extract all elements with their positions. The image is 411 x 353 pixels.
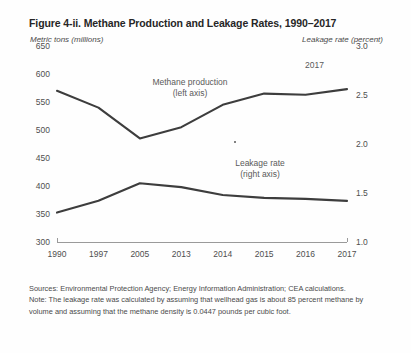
figure-container: Figure 4-ii. Methane Production and Leak… [0, 0, 411, 353]
annotation-production-line1: Methane production [152, 77, 227, 88]
x-axis-line [57, 242, 347, 243]
right-axis-tick-3: 3.0 [356, 41, 368, 51]
plot-area: 300350400450500550600650 1.01.52.02.53.0… [57, 46, 347, 242]
x-axis-right-cap [347, 238, 348, 242]
left-axis-tick-350: 350 [36, 209, 50, 219]
x-axis-tick-1997: 1997 [89, 249, 108, 259]
left-axis-tick-400: 400 [36, 181, 50, 191]
footnote-sources: Sources: Environmental Protection Agency… [29, 283, 389, 294]
right-axis-tick-2: 2.0 [356, 139, 368, 149]
annotation-leakage-line1: Leakage rate [235, 158, 285, 169]
left-axis-tick-650: 650 [36, 41, 50, 51]
series-lines [57, 46, 347, 242]
x-axis-tick-2014: 2014 [213, 249, 232, 259]
x-axis-tick-2016: 2016 [296, 249, 315, 259]
annotation-production-line2: (left axis) [152, 88, 227, 99]
annotation-leakage-rate: Leakage rate (right axis) [235, 158, 285, 179]
x-axis-tick-2013: 2013 [172, 249, 191, 259]
left-axis-tick-500: 500 [36, 125, 50, 135]
x-axis-tick-2005: 2005 [130, 249, 149, 259]
left-axis-tick-600: 600 [36, 69, 50, 79]
annotation-leakage-line2: (right axis) [235, 169, 285, 180]
left-axis-tick-300: 300 [36, 237, 50, 247]
right-axis-title: Leakage rate (percent) [302, 35, 383, 44]
footnotes: Sources: Environmental Protection Agency… [29, 283, 389, 317]
x-axis-tick-1990: 1990 [48, 249, 67, 259]
figure-title: Figure 4-ii. Methane Production and Leak… [29, 17, 336, 29]
annotation-methane-production: Methane production (left axis) [152, 77, 227, 98]
right-axis-tick-2-5: 2.5 [356, 90, 368, 100]
stray-dot-mark [234, 141, 236, 143]
left-axis-tick-450: 450 [36, 153, 50, 163]
line-leakage-rate [57, 183, 347, 212]
right-axis-tick-1: 1.0 [356, 237, 368, 247]
footnote-note: Note: The leakage rate was calculated by… [29, 294, 389, 317]
x-axis-tick-2017: 2017 [338, 249, 357, 259]
x-axis-tick-2015: 2015 [255, 249, 274, 259]
right-axis-tick-1-5: 1.5 [356, 188, 368, 198]
left-axis-tick-550: 550 [36, 97, 50, 107]
corner-year-label: 2017 [305, 60, 324, 70]
